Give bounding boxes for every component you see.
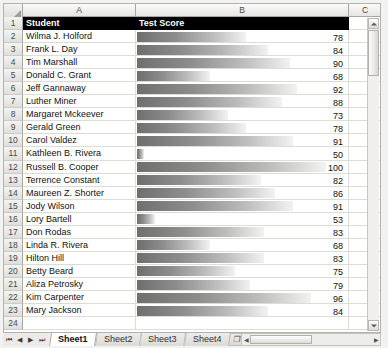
test-score-cell[interactable]: 90 bbox=[136, 56, 349, 69]
test-score-cell[interactable]: 96 bbox=[136, 291, 349, 304]
student-name-cell[interactable]: Margaret Mckeever bbox=[23, 108, 136, 121]
row-header-6[interactable]: 6 bbox=[4, 82, 23, 95]
student-name-cell[interactable]: Maureen Z. Shorter bbox=[23, 187, 136, 200]
row-header-18[interactable]: 18 bbox=[4, 239, 23, 252]
row-header-20[interactable]: 20 bbox=[4, 265, 23, 278]
previous-sheet-button[interactable]: ◀ bbox=[14, 333, 25, 346]
student-name-cell[interactable]: Russell B. Cooper bbox=[23, 161, 136, 174]
test-score-cell[interactable]: 91 bbox=[136, 134, 349, 147]
row-header-17[interactable]: 17 bbox=[4, 226, 23, 239]
test-score-cell[interactable]: 75 bbox=[136, 265, 349, 278]
test-score-cell[interactable]: 84 bbox=[136, 304, 349, 317]
student-name-cell[interactable]: Hilton Hill bbox=[23, 252, 136, 265]
test-score-cell[interactable]: 79 bbox=[136, 278, 349, 291]
test-score-cell[interactable]: 73 bbox=[136, 108, 349, 121]
test-score-cell[interactable]: 78 bbox=[136, 30, 349, 43]
row-header-2[interactable]: 2 bbox=[4, 30, 23, 43]
column-header-b[interactable]: B bbox=[136, 4, 349, 17]
select-all-corner[interactable] bbox=[4, 4, 23, 17]
row-header-7[interactable]: 7 bbox=[4, 95, 23, 108]
row-header-24[interactable]: 24 bbox=[4, 317, 23, 330]
scroll-down-button[interactable] bbox=[368, 320, 379, 331]
test-score-cell[interactable]: 84 bbox=[136, 43, 349, 56]
scroll-right-button[interactable]: ▶ bbox=[372, 334, 380, 345]
row-header-19[interactable]: 19 bbox=[4, 252, 23, 265]
last-sheet-button[interactable]: ⏭ bbox=[36, 333, 47, 346]
data-bar bbox=[137, 175, 261, 185]
row-header-9[interactable]: 9 bbox=[4, 121, 23, 134]
student-name-cell[interactable]: Kim Carpenter bbox=[23, 291, 136, 304]
test-score-cell[interactable]: 88 bbox=[136, 95, 349, 108]
table-row: 15Jody Wilson91 bbox=[4, 200, 380, 213]
row-header-4[interactable]: 4 bbox=[4, 56, 23, 69]
row-header-8[interactable]: 8 bbox=[4, 108, 23, 121]
student-name-cell[interactable]: Kathleen B. Rivera bbox=[23, 147, 136, 160]
student-name-cell[interactable]: Frank L. Day bbox=[23, 43, 136, 56]
student-name-cell[interactable]: Mary Jackson bbox=[23, 304, 136, 317]
student-name-cell[interactable]: Linda R. Rivera bbox=[23, 239, 136, 252]
cell-a1-student-header[interactable]: Student bbox=[23, 17, 136, 30]
row-header-22[interactable]: 22 bbox=[4, 291, 23, 304]
row-header-21[interactable]: 21 bbox=[4, 278, 23, 291]
column-header-a[interactable]: A bbox=[23, 4, 136, 17]
sheet-tab-sheet3[interactable]: Sheet3 bbox=[139, 333, 185, 346]
data-bar bbox=[137, 45, 268, 55]
test-score-cell[interactable]: 50 bbox=[136, 147, 349, 160]
student-name-cell[interactable]: Aliza Petrosky bbox=[23, 278, 136, 291]
horizontal-scrollbar-thumb[interactable] bbox=[250, 335, 312, 344]
row-header-1[interactable]: 1 bbox=[4, 17, 23, 30]
test-score-cell[interactable]: 68 bbox=[136, 69, 349, 82]
table-row: 9Gerald Green78 bbox=[4, 121, 380, 134]
test-score-cell[interactable]: 91 bbox=[136, 200, 349, 213]
test-score-cell[interactable]: 92 bbox=[136, 82, 349, 95]
row-header-12[interactable]: 12 bbox=[4, 161, 23, 174]
student-name-cell[interactable] bbox=[23, 317, 136, 330]
test-score-cell[interactable] bbox=[136, 317, 349, 330]
sheet-tab-sheet4[interactable]: Sheet4 bbox=[184, 333, 230, 346]
scroll-up-button[interactable] bbox=[368, 18, 379, 29]
test-score-cell[interactable]: 83 bbox=[136, 226, 349, 239]
student-name-cell[interactable]: Luther Miner bbox=[23, 95, 136, 108]
row-header-14[interactable]: 14 bbox=[4, 187, 23, 200]
student-name-cell[interactable]: Donald C. Grant bbox=[23, 69, 136, 82]
row-header-5[interactable]: 5 bbox=[4, 69, 23, 82]
row-header-11[interactable]: 11 bbox=[4, 147, 23, 160]
test-score-column-label: Test Score bbox=[139, 17, 348, 29]
vertical-scrollbar-thumb[interactable] bbox=[368, 30, 379, 76]
vertical-scrollbar[interactable] bbox=[367, 18, 379, 331]
student-name-cell[interactable]: Jody Wilson bbox=[23, 200, 136, 213]
student-name-cell[interactable]: Wilma J. Holford bbox=[23, 30, 136, 43]
student-name-cell[interactable]: Don Rodas bbox=[23, 226, 136, 239]
row-header-13[interactable]: 13 bbox=[4, 174, 23, 187]
test-score-cell[interactable]: 83 bbox=[136, 252, 349, 265]
horizontal-scrollbar[interactable]: ◀ ▶ bbox=[241, 333, 381, 346]
scroll-left-button[interactable]: ◀ bbox=[242, 334, 250, 345]
data-bar bbox=[137, 227, 264, 237]
student-name-cell[interactable]: Gerald Green bbox=[23, 121, 136, 134]
row-header-10[interactable]: 10 bbox=[4, 134, 23, 147]
sheet-tab-sheet1[interactable]: Sheet1 bbox=[49, 333, 96, 346]
student-name-cell[interactable]: Carol Valdez bbox=[23, 134, 136, 147]
student-name-cell[interactable]: Betty Beard bbox=[23, 265, 136, 278]
student-name-cell[interactable]: Lory Bartell bbox=[23, 213, 136, 226]
row-header-15[interactable]: 15 bbox=[4, 200, 23, 213]
student-name-cell[interactable]: Terrence Constant bbox=[23, 174, 136, 187]
row-header-23[interactable]: 23 bbox=[4, 304, 23, 317]
student-name-cell[interactable]: Jeff Gannaway bbox=[23, 82, 136, 95]
first-sheet-button[interactable]: ⏮ bbox=[3, 333, 14, 346]
next-sheet-button[interactable]: ▶ bbox=[25, 333, 36, 346]
row-header-3[interactable]: 3 bbox=[4, 43, 23, 56]
test-score-cell[interactable]: 78 bbox=[136, 121, 349, 134]
score-value: 68 bbox=[333, 71, 343, 82]
test-score-cell[interactable]: 82 bbox=[136, 174, 349, 187]
sheet-tab-sheet2[interactable]: Sheet2 bbox=[95, 333, 141, 346]
column-header-c[interactable]: C bbox=[349, 4, 381, 17]
sheet-tab-bar: ⏮ ◀ ▶ ⏭ Sheet1Sheet2Sheet3Sheet4❐ ◀ ▶ bbox=[3, 333, 381, 346]
row-header-16[interactable]: 16 bbox=[4, 213, 23, 226]
test-score-cell[interactable]: 86 bbox=[136, 187, 349, 200]
test-score-cell[interactable]: 53 bbox=[136, 213, 349, 226]
test-score-cell[interactable]: 68 bbox=[136, 239, 349, 252]
test-score-cell[interactable]: 100 bbox=[136, 161, 349, 174]
student-name-cell[interactable]: Tim Marshall bbox=[23, 56, 136, 69]
cell-b1-score-header[interactable]: Test Score bbox=[136, 17, 349, 30]
